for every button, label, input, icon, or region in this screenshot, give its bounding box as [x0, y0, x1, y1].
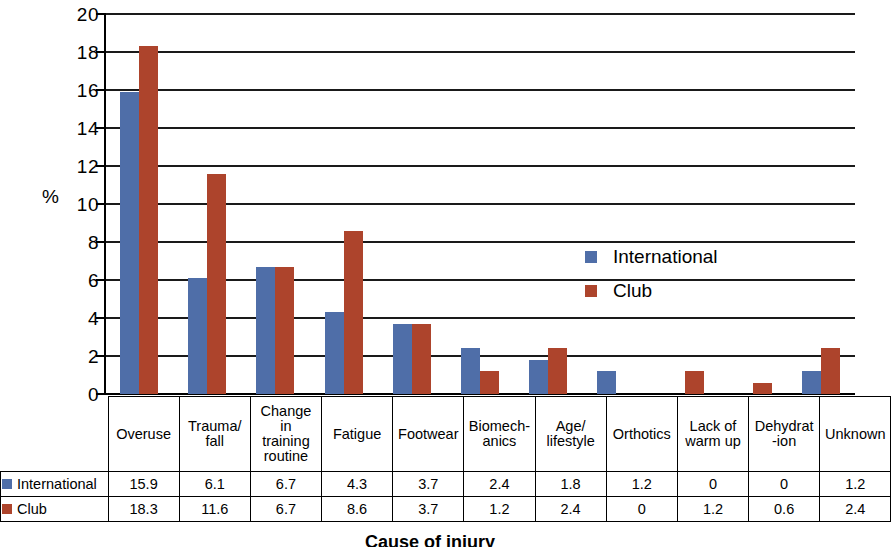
bar-group: [446, 14, 514, 394]
bar-group: [514, 14, 582, 394]
table-cell: 1.2: [606, 472, 677, 497]
y-axis-tick-labels: 02468101214161820: [55, 0, 99, 394]
bar-international: [256, 267, 275, 394]
category-header-cell: Orthotics: [606, 397, 677, 472]
category-header-cell: Age/lifestyle: [535, 397, 606, 472]
series-name: International: [17, 477, 97, 492]
bar-club: [139, 46, 158, 394]
table-cell: 2.4: [535, 497, 606, 522]
table-row: International15.96.16.74.33.72.41.81.200…: [1, 472, 891, 497]
table-cell: 18.3: [108, 497, 179, 522]
category-header-cell: Changeintrainingroutine: [250, 397, 321, 472]
bar-club: [548, 348, 567, 394]
category-header-cell: Trauma/fall: [179, 397, 250, 472]
table-cell: 6.7: [250, 497, 321, 522]
y-axis-tick-label: 4: [55, 309, 99, 328]
bar-group: [787, 14, 855, 394]
series-name: Club: [17, 502, 47, 517]
y-axis-tick-label: 18: [55, 43, 99, 62]
table-cell: 0: [606, 497, 677, 522]
bar-club: [412, 324, 431, 394]
legend-label: International: [613, 246, 718, 268]
y-axis-tick-label: 8: [55, 233, 99, 252]
y-axis-tick-label: 2: [55, 347, 99, 366]
bar-international: [461, 348, 480, 394]
table-cell: 6.7: [250, 472, 321, 497]
bar-club: [753, 383, 772, 394]
bar-group: [378, 14, 446, 394]
bar-international: [393, 324, 412, 394]
y-axis-tick-label: 16: [55, 81, 99, 100]
table-cell: 1.2: [464, 497, 535, 522]
y-axis-tick-label: 20: [55, 5, 99, 24]
bar-club: [480, 371, 499, 394]
bar-group: [719, 14, 787, 394]
series-label-cell: International: [1, 472, 109, 497]
table-cell: 3.7: [393, 472, 464, 497]
category-header-cell: Unknown: [820, 397, 891, 472]
category-header-cell: Dehydrat-ion: [749, 397, 820, 472]
bars-layer: [105, 14, 855, 394]
table-corner-cell: [1, 397, 109, 472]
legend-label: Club: [613, 280, 652, 302]
bar-group: [650, 14, 718, 394]
legend-swatch-icon: [585, 285, 597, 297]
legend-item: International: [585, 240, 718, 274]
chart-legend: InternationalClub: [585, 240, 718, 308]
bar-international: [325, 312, 344, 394]
y-axis-tick-label: 10: [55, 195, 99, 214]
category-header-cell: Footwear: [393, 397, 464, 472]
category-header-cell: Overuse: [108, 397, 179, 472]
bar-club: [821, 348, 840, 394]
bar-club: [344, 231, 363, 394]
bar-group: [582, 14, 650, 394]
table-cell: 11.6: [179, 497, 250, 522]
bar-club: [275, 267, 294, 394]
series-label-cell: Club: [1, 497, 109, 522]
y-axis-tick-label: 14: [55, 119, 99, 138]
table-cell: 0: [749, 472, 820, 497]
table-cell: 2.4: [464, 472, 535, 497]
table-cell: 2.4: [820, 497, 891, 522]
table-cell: 3.7: [393, 497, 464, 522]
data-table: OveruseTrauma/fallChangeintrainingroutin…: [0, 396, 891, 522]
bar-international: [597, 371, 616, 394]
bar-international: [188, 278, 207, 394]
bar-group: [173, 14, 241, 394]
legend-item: Club: [585, 274, 718, 308]
table-cell: 1.2: [820, 472, 891, 497]
bar-international: [529, 360, 548, 394]
table-cell: 1.8: [535, 472, 606, 497]
bar-group: [241, 14, 309, 394]
table-header-row: OveruseTrauma/fallChangeintrainingroutin…: [1, 397, 891, 472]
chart-caption: Cause of injury: [0, 532, 860, 547]
y-axis-tick-label: 6: [55, 271, 99, 290]
table-cell: 8.6: [322, 497, 393, 522]
series-swatch-icon: [2, 504, 12, 514]
table-cell: 15.9: [108, 472, 179, 497]
bar-group: [310, 14, 378, 394]
legend-swatch-icon: [585, 251, 597, 263]
table-cell: 4.3: [322, 472, 393, 497]
bar-group: [105, 14, 173, 394]
table-cell: 6.1: [179, 472, 250, 497]
table-cell: 1.2: [677, 497, 748, 522]
bar-international: [802, 371, 821, 394]
table-row: Club18.311.66.78.63.71.22.401.20.62.4: [1, 497, 891, 522]
bar-international: [120, 92, 139, 394]
table-cell: 0.6: [749, 497, 820, 522]
bar-club: [207, 174, 226, 394]
table-cell: 0: [677, 472, 748, 497]
category-header-cell: Lack ofwarm up: [677, 397, 748, 472]
y-axis-title: %: [42, 186, 59, 208]
category-header-cell: Fatigue: [322, 397, 393, 472]
category-header-cell: Biomech-anics: [464, 397, 535, 472]
bar-club: [685, 371, 704, 394]
data-table-wrapper: OveruseTrauma/fallChangeintrainingroutin…: [0, 396, 860, 522]
y-axis-tick-label: 12: [55, 157, 99, 176]
series-swatch-icon: [2, 479, 12, 489]
